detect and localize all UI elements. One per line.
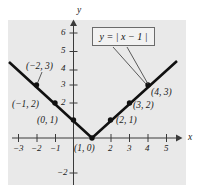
leader-line-left: [113, 47, 146, 84]
point-label--1-2: (−1, 2): [12, 100, 39, 110]
data-point-markers: [34, 82, 151, 140]
point-label-0-1: (0, 1): [37, 116, 58, 126]
figure-container: y = | x − 1 | x y −3 −2 −1 2 3 4 5 6 5 4…: [0, 0, 198, 190]
point--1-2: [52, 100, 57, 105]
label-pointer--2-3: [38, 72, 43, 83]
x-tick-label--3: −3: [13, 144, 24, 153]
x-axis-group: [12, 135, 183, 142]
x-tick-label-4: 4: [145, 144, 150, 153]
y-axis-arrowhead: [70, 20, 77, 27]
y-axis-label: y: [77, 6, 81, 16]
x-axis-arrowhead: [176, 135, 183, 142]
point-2-1: [108, 117, 113, 122]
x-tick-label--2: −2: [31, 144, 42, 153]
point-label-2-1: (2, 1): [116, 116, 137, 126]
y-tick-label-3: 3: [61, 80, 66, 89]
point-0-1: [71, 117, 76, 122]
point--2-3: [34, 82, 39, 87]
point-label-3-2: (3, 2): [133, 101, 154, 111]
x-tick-label-5: 5: [164, 144, 169, 153]
x-axis-label: x: [188, 133, 192, 143]
equation-callout-label: y = | x − 1 |: [100, 31, 148, 42]
y-tick-label-5: 5: [61, 46, 66, 55]
y-axis-group: [70, 20, 77, 186]
x-tick-label--1: −1: [50, 144, 61, 153]
equation-callout-box: y = | x − 1 |: [92, 27, 155, 46]
point-label-1-0: (1, 0): [74, 144, 95, 154]
x-tick-label-3: 3: [127, 144, 132, 153]
y-tick-label--2: −2: [57, 168, 68, 177]
y-tick-label-4: 4: [61, 64, 66, 73]
point-label--2-3: (−2, 3): [26, 62, 53, 72]
y-tick-label-6: 6: [61, 28, 66, 37]
point-3-2: [127, 100, 132, 105]
point-1-0: [89, 135, 94, 140]
leader-line-right: [127, 47, 148, 84]
x-tick-label-2: 2: [108, 144, 113, 153]
point-label-4-3: (4, 3): [151, 88, 172, 98]
y-tick-label-2: 2: [61, 98, 66, 107]
callout-leader-lines: [113, 47, 148, 84]
